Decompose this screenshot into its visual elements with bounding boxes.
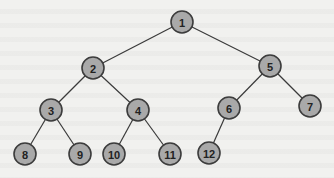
node-label: 11 xyxy=(164,149,176,161)
tree-node-1: 1 xyxy=(171,11,193,33)
tree-node-8: 8 xyxy=(14,143,36,165)
node-label: 8 xyxy=(22,149,28,161)
edge-1-2 xyxy=(93,22,182,68)
edges-group xyxy=(25,22,310,154)
node-label: 1 xyxy=(179,17,185,29)
nodes-group: 125346789101112 xyxy=(14,11,321,165)
tree-node-3: 3 xyxy=(40,99,62,121)
edge-1-5 xyxy=(182,22,270,66)
tree-node-10: 10 xyxy=(103,143,125,165)
node-label: 6 xyxy=(226,103,232,115)
node-label: 10 xyxy=(108,149,120,161)
node-label: 9 xyxy=(77,149,83,161)
tree-svg: 125346789101112 xyxy=(0,0,334,178)
node-label: 12 xyxy=(203,148,215,160)
node-label: 7 xyxy=(307,101,313,113)
tree-node-5: 5 xyxy=(259,55,281,77)
node-label: 4 xyxy=(135,105,142,117)
tree-node-7: 7 xyxy=(299,95,321,117)
node-label: 5 xyxy=(267,61,273,73)
tree-node-9: 9 xyxy=(69,143,91,165)
tree-node-12: 12 xyxy=(198,142,220,164)
node-label: 3 xyxy=(48,105,54,117)
tree-node-2: 2 xyxy=(82,57,104,79)
tree-node-4: 4 xyxy=(127,99,149,121)
tree-node-6: 6 xyxy=(218,97,240,119)
node-label: 2 xyxy=(90,63,96,75)
tree-node-11: 11 xyxy=(159,143,181,165)
tree-diagram: 125346789101112 xyxy=(0,0,334,178)
